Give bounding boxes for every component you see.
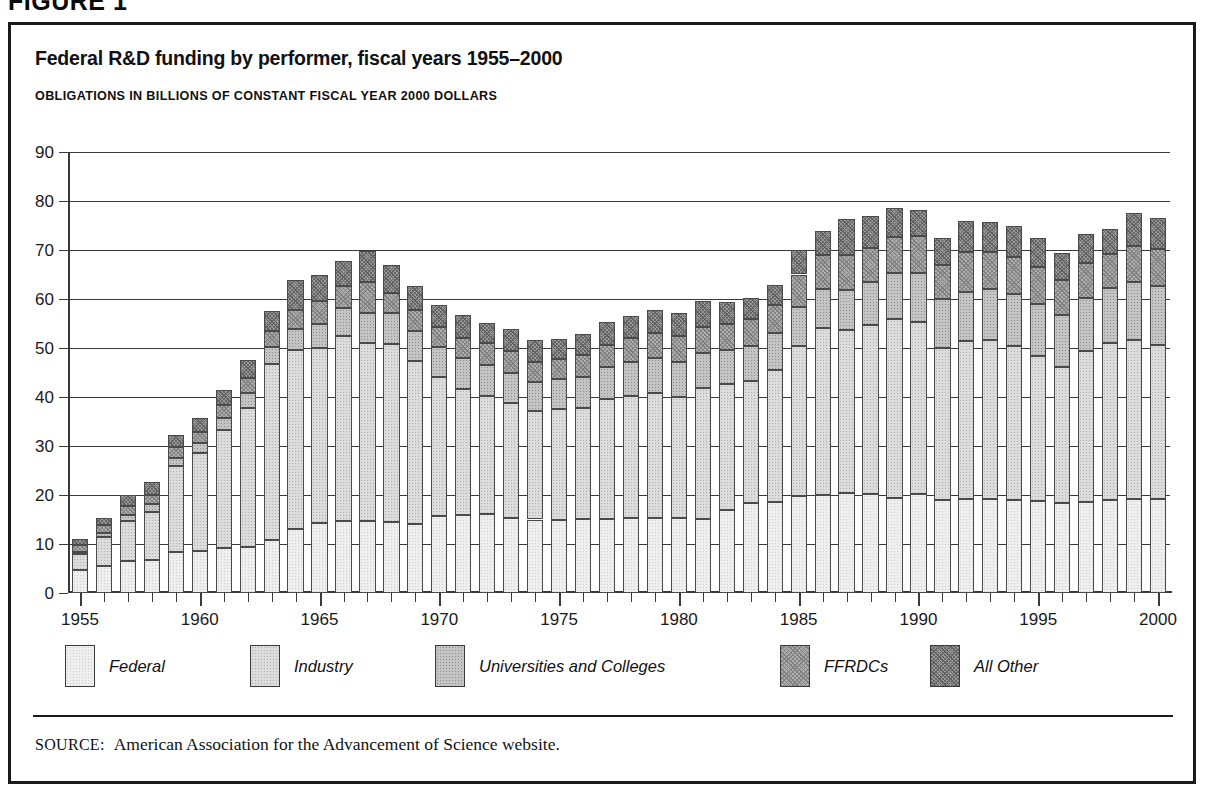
bar-segment-all-other	[120, 495, 136, 506]
x-axis-tick	[463, 593, 464, 602]
bar-segment-universities-and-colleges	[335, 308, 351, 335]
bar-segment-federal	[671, 518, 687, 593]
bar-segment-all-other	[383, 265, 399, 292]
bar-segment-federal	[96, 566, 112, 593]
x-axis-label: 1980	[660, 611, 698, 628]
bar-1999	[1126, 152, 1142, 593]
chart-title: Federal R&D funding by performer, fiscal…	[35, 47, 562, 70]
bar-1967	[359, 152, 375, 593]
bar-segment-industry	[767, 370, 783, 502]
source-divider	[33, 715, 1173, 717]
bar-segment-industry	[719, 384, 735, 510]
bar-segment-universities-and-colleges	[767, 333, 783, 370]
bar-1997	[1078, 152, 1094, 593]
bar-segment-ffrdcs	[719, 324, 735, 349]
bar-segment-industry	[311, 348, 327, 522]
bar-segment-industry	[144, 512, 160, 561]
bar-segment-ffrdcs	[551, 359, 567, 379]
bar-segment-federal	[527, 520, 543, 594]
x-axis-label: 1985	[780, 611, 818, 628]
bar-segment-universities-and-colleges	[72, 552, 88, 554]
bar-segment-federal	[216, 548, 232, 593]
x-axis-tick	[535, 593, 536, 602]
bar-segment-industry	[216, 430, 232, 548]
bar-segment-industry	[407, 361, 423, 524]
x-axis-label: 1955	[61, 611, 99, 628]
bar-segment-universities-and-colleges	[1030, 304, 1046, 356]
x-axis-tick	[511, 593, 512, 602]
bar-segment-universities-and-colleges	[192, 443, 208, 453]
bar-segment-ffrdcs	[599, 345, 615, 367]
x-axis-label: 1990	[900, 611, 938, 628]
x-axis-tick	[152, 593, 153, 602]
bar-segment-all-other	[144, 482, 160, 494]
bar-segment-federal	[982, 499, 998, 593]
bar-segment-universities-and-colleges	[551, 379, 567, 409]
legend-label: Federal	[109, 657, 165, 676]
bar-segment-universities-and-colleges	[455, 358, 471, 389]
bar-segment-industry	[1006, 346, 1022, 501]
x-axis-tick	[1086, 593, 1087, 602]
x-axis-tick	[966, 593, 967, 602]
bar-segment-federal	[120, 561, 136, 593]
bar-segment-industry	[1126, 340, 1142, 500]
x-axis-tick	[200, 593, 202, 606]
bar-segment-industry	[886, 319, 902, 499]
x-axis-tick	[487, 593, 488, 602]
bar-segment-federal	[287, 529, 303, 593]
y-axis-tick	[59, 299, 68, 300]
legend-swatch	[435, 645, 465, 687]
legend-item-all-other: All Other	[930, 645, 1038, 687]
bar-1970	[431, 152, 447, 593]
bar-segment-all-other	[982, 222, 998, 253]
y-axis-line	[68, 152, 70, 593]
y-axis-label: 60	[35, 291, 54, 308]
bar-segment-industry	[671, 397, 687, 517]
y-axis-tick	[59, 152, 68, 153]
bar-segment-industry	[1030, 356, 1046, 501]
bar-segment-federal	[431, 516, 447, 593]
bar-segment-federal	[264, 540, 280, 593]
bar-1973	[503, 152, 519, 593]
bar-segment-federal	[886, 498, 902, 593]
bar-segment-ffrdcs	[1030, 267, 1046, 304]
bar-segment-all-other	[96, 518, 112, 526]
bar-segment-industry	[503, 403, 519, 517]
bar-segment-all-other	[1078, 234, 1094, 263]
bar-segment-ffrdcs	[240, 378, 256, 393]
bar-segment-industry	[623, 396, 639, 519]
bar-segment-all-other	[240, 360, 256, 379]
bar-segment-universities-and-colleges	[647, 358, 663, 393]
bar-1971	[455, 152, 471, 593]
bar-segment-all-other	[359, 251, 375, 281]
bar-segment-universities-and-colleges	[1102, 288, 1118, 343]
x-axis-tick	[1062, 593, 1063, 602]
bar-segment-universities-and-colleges	[240, 393, 256, 408]
bar-segment-industry	[551, 409, 567, 519]
bar-segment-all-other	[743, 298, 759, 319]
gridline	[68, 348, 1170, 349]
bar-segment-ffrdcs	[1150, 249, 1166, 286]
x-axis-tick	[751, 593, 752, 602]
bar-segment-universities-and-colleges	[144, 504, 160, 511]
bar-segment-industry	[934, 348, 950, 500]
bar-segment-all-other	[527, 340, 543, 362]
bar-segment-universities-and-colleges	[695, 353, 711, 388]
bar-1994	[1006, 152, 1022, 593]
bar-segment-all-other	[551, 339, 567, 359]
bar-segment-ffrdcs	[192, 432, 208, 443]
bar-segment-industry	[815, 328, 831, 495]
bar-segment-federal	[1030, 501, 1046, 593]
bar-segment-ffrdcs	[815, 255, 831, 289]
bar-segment-industry	[192, 453, 208, 551]
bar-1981	[695, 152, 711, 593]
x-axis-tick	[320, 593, 322, 606]
legend-swatch	[930, 645, 960, 687]
bar-segment-ffrdcs	[671, 336, 687, 362]
bar-1972	[479, 152, 495, 593]
x-axis-tick	[775, 593, 776, 602]
source-label: SOURCE:	[35, 736, 105, 753]
bar-segment-industry	[743, 381, 759, 503]
bar-segment-all-other	[455, 315, 471, 339]
x-axis-tick	[224, 593, 225, 602]
